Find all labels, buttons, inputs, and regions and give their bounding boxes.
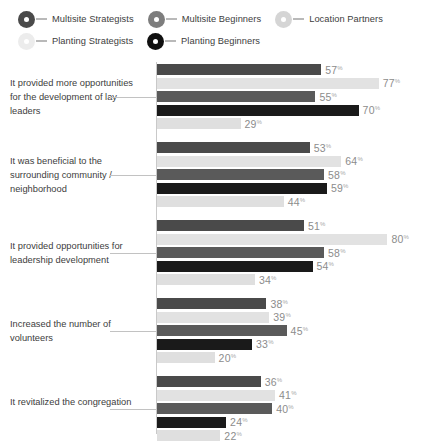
legend-item[interactable]: Planting Beginners bbox=[147, 33, 260, 50]
bar-group: Increased the number of volunteers38%39%… bbox=[0, 298, 422, 363]
bar bbox=[157, 376, 261, 387]
legend-connector-line bbox=[293, 18, 304, 20]
percent-sign: % bbox=[329, 261, 335, 267]
bar-value-label: 64% bbox=[345, 155, 363, 167]
bar-row: 29% bbox=[157, 118, 422, 129]
percent-sign: % bbox=[340, 169, 346, 175]
bar-stack: 57%77%55%70%29% bbox=[157, 64, 422, 129]
bar bbox=[157, 390, 275, 401]
bar bbox=[157, 312, 269, 323]
legend-dot-icon bbox=[18, 11, 35, 28]
percent-sign: % bbox=[288, 403, 294, 409]
legend-connector-line bbox=[165, 40, 176, 42]
bar-group: It was beneficial to the surrounding com… bbox=[0, 142, 422, 207]
percent-sign: % bbox=[320, 220, 326, 226]
percent-sign: % bbox=[403, 234, 409, 240]
percent-sign: % bbox=[271, 274, 277, 280]
bar-value-label: 54% bbox=[317, 260, 335, 272]
bar bbox=[157, 417, 226, 428]
bar-row: 58% bbox=[157, 247, 422, 258]
bar-value-label: 29% bbox=[245, 118, 263, 130]
bar-value-label: 57% bbox=[325, 64, 343, 76]
bar-value-label: 51% bbox=[308, 220, 326, 232]
bar bbox=[157, 339, 252, 350]
legend-row-1: Multisite StrategistsMultisite Beginners… bbox=[0, 8, 422, 30]
bar-value-label: 38% bbox=[270, 298, 288, 310]
bar bbox=[157, 142, 310, 153]
bar-row: 24% bbox=[157, 417, 422, 428]
bar-group: It revitalized the congregation36%41%40%… bbox=[0, 376, 422, 441]
bar bbox=[157, 118, 241, 129]
percent-sign: % bbox=[337, 64, 343, 70]
chart-plot-area: It provided more opportunities for the d… bbox=[0, 56, 422, 441]
bar bbox=[157, 247, 324, 258]
bar-value-label: 40% bbox=[276, 403, 294, 415]
bar-stack: 51%80%58%54%34% bbox=[157, 220, 422, 285]
bar-row: 45% bbox=[157, 325, 422, 336]
bar-row: 44% bbox=[157, 196, 422, 207]
percent-sign: % bbox=[285, 312, 291, 318]
bar-row: 40% bbox=[157, 403, 422, 414]
bar-row: 59% bbox=[157, 183, 422, 194]
bar bbox=[157, 352, 215, 363]
percent-sign: % bbox=[357, 156, 363, 162]
legend-item[interactable]: Multisite Strategists bbox=[18, 11, 134, 28]
bar-value-label: 70% bbox=[363, 104, 381, 116]
legend-dot-icon bbox=[275, 11, 292, 28]
bar-row: 39% bbox=[157, 312, 422, 323]
legend-connector-line bbox=[36, 18, 47, 20]
bar-value-label: 58% bbox=[328, 169, 346, 181]
legend-label: Location Partners bbox=[309, 14, 383, 24]
percent-sign: % bbox=[340, 247, 346, 253]
bar-value-label: 77% bbox=[383, 77, 401, 89]
bar-value-label: 22% bbox=[224, 430, 242, 441]
bar-stack: 36%41%40%24%22% bbox=[157, 376, 422, 441]
legend-label: Planting Strategists bbox=[52, 36, 133, 46]
percent-sign: % bbox=[283, 298, 289, 304]
bar-row: 57% bbox=[157, 64, 422, 75]
bar-row: 20% bbox=[157, 352, 422, 363]
percent-sign: % bbox=[300, 196, 306, 202]
bar-value-label: 20% bbox=[219, 352, 237, 364]
bar bbox=[157, 64, 321, 75]
bar bbox=[157, 298, 266, 309]
bar bbox=[157, 105, 359, 116]
bar-value-label: 44% bbox=[288, 196, 306, 208]
label-connector-line bbox=[110, 331, 156, 332]
bar-row: 53% bbox=[157, 142, 422, 153]
legend-connector-line bbox=[166, 18, 177, 20]
percent-sign: % bbox=[277, 376, 283, 382]
legend-item[interactable]: Multisite Beginners bbox=[148, 11, 262, 28]
legend-label: Multisite Strategists bbox=[52, 14, 134, 24]
legend-item[interactable]: Location Partners bbox=[275, 11, 383, 28]
percent-sign: % bbox=[331, 91, 337, 97]
legend-dot-icon bbox=[147, 33, 164, 50]
percent-sign: % bbox=[257, 118, 263, 124]
bar bbox=[157, 325, 287, 336]
bar-value-label: 39% bbox=[273, 311, 291, 323]
bar bbox=[157, 234, 387, 245]
bar bbox=[157, 430, 220, 441]
bar-row: 55% bbox=[157, 91, 422, 102]
bar-row: 51% bbox=[157, 220, 422, 231]
bar-row: 34% bbox=[157, 274, 422, 285]
percent-sign: % bbox=[395, 78, 401, 84]
bar bbox=[157, 169, 324, 180]
label-connector-line bbox=[110, 97, 156, 98]
bar-value-label: 45% bbox=[291, 325, 309, 337]
percent-sign: % bbox=[303, 325, 309, 331]
bar-row: 33% bbox=[157, 339, 422, 350]
bar bbox=[157, 220, 304, 231]
category-label: It revitalized the congregation bbox=[10, 395, 144, 409]
bar bbox=[157, 156, 341, 167]
legend-dot-icon bbox=[18, 33, 35, 50]
bar-row: 64% bbox=[157, 156, 422, 167]
bar-value-label: 34% bbox=[259, 274, 277, 286]
bar-value-label: 24% bbox=[230, 416, 248, 428]
bar-value-label: 53% bbox=[314, 142, 332, 154]
bar-row: 36% bbox=[157, 376, 422, 387]
bar bbox=[157, 403, 272, 414]
legend-item[interactable]: Planting Strategists bbox=[18, 33, 133, 50]
legend-dot-icon bbox=[148, 11, 165, 28]
bar bbox=[157, 261, 313, 272]
